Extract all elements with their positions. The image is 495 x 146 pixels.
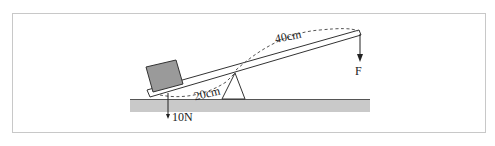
figure-frame	[13, 14, 486, 133]
long-arm-label: 40cm	[274, 27, 304, 46]
force-label: F	[355, 64, 362, 78]
ground	[130, 100, 370, 112]
force-arrow-head	[357, 54, 363, 62]
weight-arrow-head	[166, 114, 170, 119]
lever-plank	[147, 30, 361, 97]
weight-label: 10N	[172, 110, 193, 124]
lever-diagram: 40cm 20cm 10N F	[0, 0, 495, 146]
fulcrum	[222, 73, 245, 99]
